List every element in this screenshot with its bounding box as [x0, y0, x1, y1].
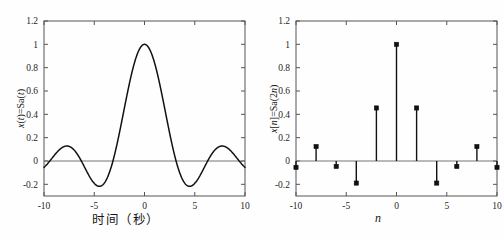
y-tick-label: 0 [285, 156, 290, 166]
y-tick-label: 0.4 [278, 110, 290, 120]
y-tick-label: 0.8 [26, 63, 38, 73]
discrete-stem-plot-svg: -0.200.20.40.60.811.2-10-50510 [252, 0, 504, 240]
x-tick-label: -5 [90, 201, 98, 211]
stem-marker [374, 106, 378, 110]
stem-marker [435, 181, 439, 185]
stem-marker [455, 164, 459, 168]
x-axis-label-left: 时间（秒） [0, 214, 252, 227]
y-tick-label: 1 [33, 40, 38, 50]
stem-series [294, 42, 499, 185]
chart-panel-discrete: -0.200.20.40.60.811.2-10-50510 x[n]=Sa(2… [252, 0, 504, 240]
x-tick-label: -5 [342, 201, 350, 211]
y-tick-label: 0.6 [26, 86, 38, 96]
x-tick-label: 5 [444, 201, 449, 211]
x-tick-label: -10 [290, 201, 303, 211]
y-tick-label: 1.2 [26, 16, 38, 26]
plot-frame [44, 21, 245, 196]
chart-panel-continuous: -0.200.20.40.60.811.2-10-50510 x(t)=Sa(t… [0, 0, 252, 240]
stem-marker [394, 42, 398, 46]
y-axis-label-right: x[n]=Sa(2n) [269, 84, 279, 132]
x-tick-label: 0 [394, 201, 399, 211]
continuous-plot-svg: -0.200.20.40.60.811.2-10-50510 [0, 0, 252, 240]
stem-marker [334, 164, 338, 168]
stem-marker [495, 165, 499, 169]
y-tick-label: 1.2 [278, 16, 290, 26]
x-tick-label: 10 [240, 201, 250, 211]
stem-marker [415, 106, 419, 110]
y-axis-label-left: x(t)=Sa(t) [16, 89, 26, 128]
y-tick-label: 0.2 [278, 133, 290, 143]
stem-marker [314, 144, 318, 148]
y-tick-label: -0.2 [23, 180, 38, 190]
x-tick-label: 10 [492, 201, 502, 211]
y-tick-label: 0.6 [278, 86, 290, 96]
y-tick-label: -0.2 [275, 180, 290, 190]
y-tick-label: 0.4 [26, 110, 38, 120]
x-axis-label-right: n [252, 212, 504, 224]
y-tick-label: 0 [33, 156, 38, 166]
x-tick-label: 5 [192, 201, 197, 211]
stem-marker [294, 165, 298, 169]
x-tick-label: 0 [142, 201, 147, 211]
stem-marker [354, 181, 358, 185]
y-tick-label: 0.8 [278, 63, 290, 73]
y-tick-label: 1 [285, 40, 290, 50]
figure-container: -0.200.20.40.60.811.2-10-50510 x(t)=Sa(t… [0, 0, 504, 240]
x-tick-label: -10 [38, 201, 51, 211]
sa-function-curve [44, 44, 245, 186]
stem-marker [475, 144, 479, 148]
y-tick-label: 0.2 [26, 133, 38, 143]
